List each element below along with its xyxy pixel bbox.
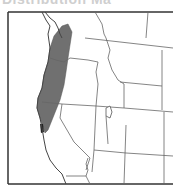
map-frame <box>8 12 173 184</box>
range-map <box>0 0 173 196</box>
great-salt-lake <box>106 106 112 118</box>
range-shading <box>37 24 72 133</box>
